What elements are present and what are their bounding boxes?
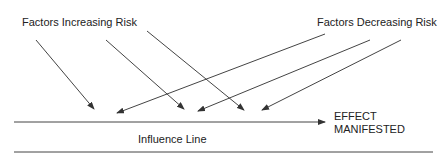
influence-line-label: Influence Line bbox=[138, 133, 207, 145]
decreasing-arrow-2 bbox=[198, 40, 370, 111]
effect-label-line2: MANIFESTED bbox=[334, 123, 405, 136]
decreasing-risk-label: Factors Decreasing Risk bbox=[317, 16, 437, 28]
effect-label-line1: EFFECT bbox=[334, 110, 405, 123]
increasing-arrow-1 bbox=[36, 40, 94, 109]
increasing-arrow-2 bbox=[106, 40, 184, 109]
increasing-risk-label: Factors Increasing Risk bbox=[22, 16, 137, 28]
effect-manifested-label: EFFECT MANIFESTED bbox=[334, 110, 405, 136]
